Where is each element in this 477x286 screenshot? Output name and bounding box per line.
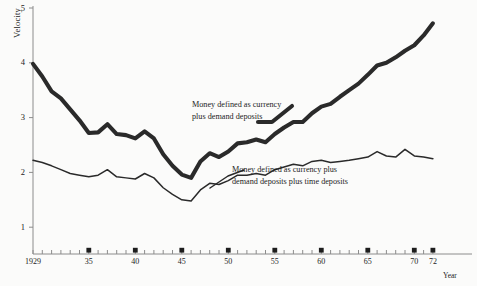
- y-axis-tick-label: 5: [9, 3, 25, 13]
- x-axis-tick-label: 72: [420, 257, 446, 266]
- x-axis-title: Year: [443, 271, 457, 280]
- x-axis-tick-label: 1929: [20, 257, 46, 266]
- annotation-line: plus demand deposits: [192, 111, 281, 123]
- annotation-line: Money defined as currency: [192, 99, 281, 111]
- series-annotation-m1: Money defined as currencyplus demand dep…: [192, 99, 281, 122]
- x-axis-tick-label: 50: [215, 257, 241, 266]
- chart-plot-area: [0, 0, 477, 286]
- x-axis-tick-label: 65: [355, 257, 381, 266]
- x-axis-tick-label: 35: [76, 257, 102, 266]
- annotation-line: Money defined as currency plus: [232, 164, 348, 176]
- y-axis-tick-label: 4: [9, 57, 25, 67]
- velocity-of-money-chart: Velocity 12345 1929354045505560657072 Ye…: [0, 0, 477, 286]
- x-axis-tick-label: 60: [308, 257, 334, 266]
- annotation-line: demand deposits plus time deposits: [232, 176, 348, 188]
- series-annotation-m2: Money defined as currency plusdemand dep…: [232, 164, 348, 187]
- x-axis-tick-label: 45: [169, 257, 195, 266]
- x-axis-tick-label: 55: [262, 257, 288, 266]
- chart-year-markers: [86, 248, 435, 253]
- x-axis-tick-label: 40: [122, 257, 148, 266]
- y-axis-tick-label: 2: [9, 167, 25, 177]
- y-axis-tick-label: 3: [9, 112, 25, 122]
- y-axis-tick-label: 1: [9, 222, 25, 232]
